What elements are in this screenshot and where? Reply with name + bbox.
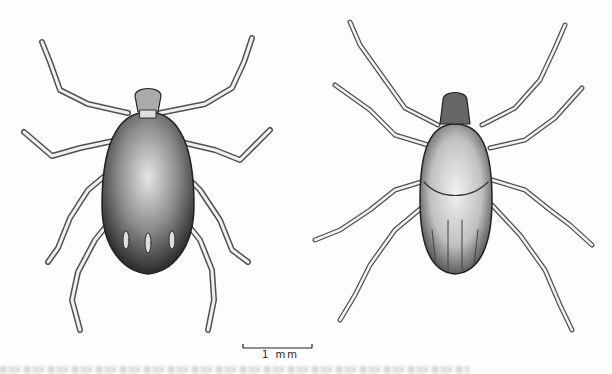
illustration-plate: 1 mm bbox=[0, 0, 612, 374]
scale-bar bbox=[243, 344, 312, 348]
illegible-caption bbox=[0, 366, 470, 373]
tick-right bbox=[315, 22, 592, 330]
tick-illustrations bbox=[0, 0, 612, 374]
scale-bar-label: 1 mm bbox=[262, 349, 299, 360]
tick-left bbox=[24, 38, 270, 330]
